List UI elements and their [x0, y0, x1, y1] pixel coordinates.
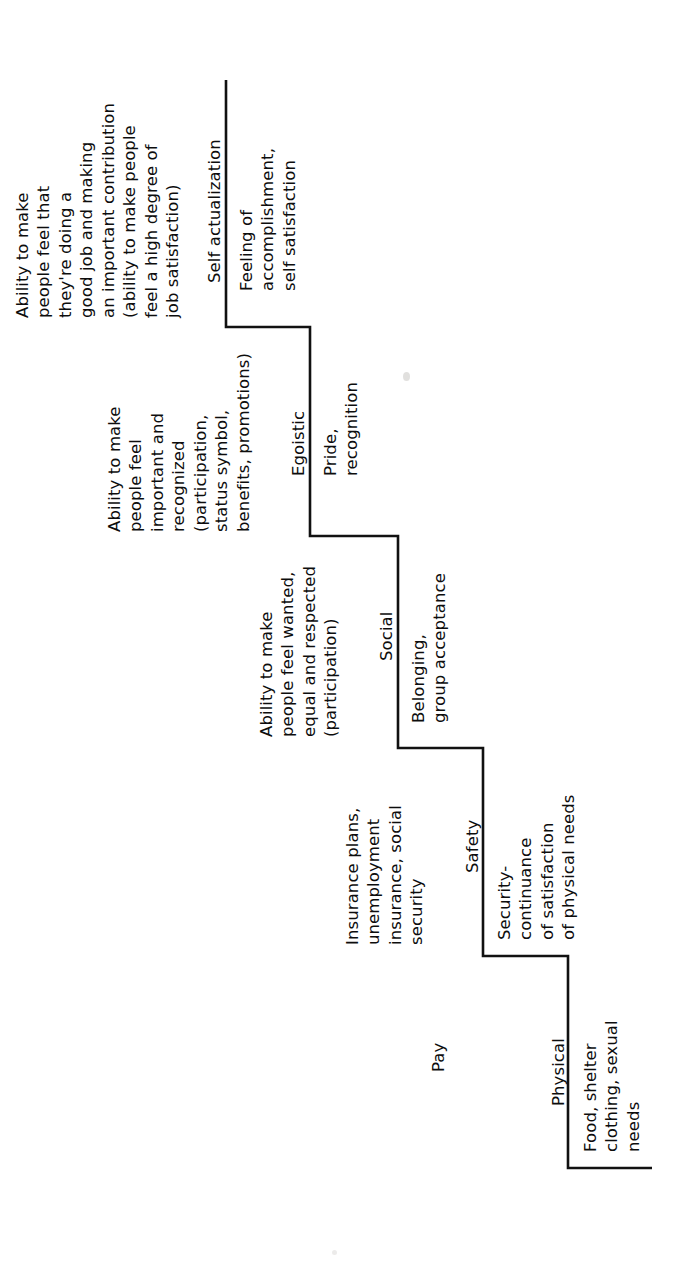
scan-speck	[332, 1250, 337, 1255]
note-line: Insurance plans,	[342, 805, 363, 945]
desc-line: Security-	[494, 794, 515, 940]
desc-line: Belonging,	[408, 573, 429, 723]
tier-label-physical: Physical	[548, 1038, 569, 1106]
desc-line: recognition	[341, 382, 362, 476]
note-line: Pay	[428, 1043, 449, 1072]
desc-line: of physical needs	[558, 794, 579, 940]
tier-description-physical: Food, shelter clothing, sexual needs	[580, 1020, 644, 1152]
manager-note-safety: Insurance plans, unemployment insurance,…	[342, 805, 428, 945]
tier-label-text: Social	[376, 611, 397, 661]
manager-note-egoistic: Ability to make people feel important an…	[104, 353, 254, 532]
note-line: insurance, social	[385, 805, 406, 945]
tier-description-social: Belonging, group acceptance	[408, 573, 451, 723]
tier-label-social: Social	[376, 611, 397, 661]
tier-label-self-actualization: Self actualization	[204, 139, 225, 283]
desc-line: clothing, sexual	[601, 1020, 622, 1152]
tier-label-text: Self actualization	[204, 139, 225, 283]
note-line: (ability to make people	[119, 103, 140, 318]
tier-label-egoistic: Egoistic	[288, 411, 309, 476]
note-line: equal and respected	[299, 566, 320, 737]
desc-line: accomplishment,	[257, 148, 278, 291]
tier-description-self-actualization: Feeling of accomplishment, self satisfac…	[236, 148, 300, 291]
desc-line: continuance	[515, 794, 536, 940]
note-line: people feel wanted,	[277, 566, 298, 737]
note-line: Ability to make	[104, 353, 125, 532]
manager-note-physical: Pay	[428, 1043, 449, 1072]
note-line: recognized	[168, 353, 189, 532]
note-line: an important contribution	[98, 103, 119, 318]
note-line: people feel	[125, 353, 146, 532]
desc-line: of satisfaction	[537, 794, 558, 940]
tier-label-text: Safety	[462, 820, 483, 873]
desc-line: Pride,	[320, 382, 341, 476]
note-line: status symbol,	[211, 353, 232, 532]
note-line: (participation,	[190, 353, 211, 532]
note-line: important and	[147, 353, 168, 532]
note-line: Ability to make	[12, 103, 33, 318]
tier-description-egoistic: Pride, recognition	[320, 382, 363, 476]
note-line: good job and making	[76, 103, 97, 318]
scan-speck	[403, 372, 410, 381]
note-line: benefits, promotions)	[233, 353, 254, 532]
note-line: people feel that	[33, 103, 54, 318]
tier-description-safety: Security- continuance of satisfaction of…	[494, 794, 580, 940]
desc-line: group acceptance	[429, 573, 450, 723]
manager-note-social: Ability to make people feel wanted, equa…	[256, 566, 342, 737]
note-line: unemployment	[363, 805, 384, 945]
manager-note-self-actualization: Ability to make people feel that they're…	[12, 103, 184, 318]
note-line: security	[406, 805, 427, 945]
note-line: job satisfaction)	[162, 103, 183, 318]
desc-line: Food, shelter	[580, 1020, 601, 1152]
note-line: feel a high degree of	[141, 103, 162, 318]
desc-line: Feeling of	[236, 148, 257, 291]
tier-label-text: Egoistic	[288, 411, 309, 476]
tier-label-text: Physical	[548, 1038, 569, 1106]
note-line: (participation)	[320, 566, 341, 737]
note-line: Ability to make	[256, 566, 277, 737]
desc-line: needs	[623, 1020, 644, 1152]
diagram-canvas: Ability to make people feel that they're…	[0, 0, 684, 1273]
desc-line: self satisfaction	[279, 148, 300, 291]
tier-label-safety: Safety	[462, 820, 483, 873]
note-line: they're doing a	[55, 103, 76, 318]
